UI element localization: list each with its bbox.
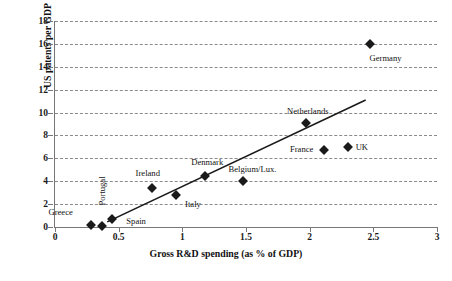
y-axis-tick-mark [48, 90, 53, 91]
gridline [55, 158, 437, 159]
gridline [55, 67, 437, 68]
x-axis-tick-label: 1 [180, 232, 185, 242]
y-axis-tick-mark [48, 158, 53, 159]
y-axis-tick-mark [48, 181, 53, 182]
x-axis-tick-label: 0 [53, 232, 58, 242]
data-point-marker [200, 171, 210, 181]
gridline [55, 135, 437, 136]
data-point-label: Ireland [136, 168, 160, 178]
scatter-chart: US patents per GDP Gross R&D spending (a… [0, 0, 452, 281]
data-point-label: France [290, 144, 313, 154]
data-point-label: UK [356, 142, 368, 152]
data-point-label: Belgium/Lux. [228, 164, 276, 174]
data-point-marker [107, 214, 117, 224]
x-axis-title: Gross R&D spending (as % of GDP) [0, 248, 452, 259]
gridline [55, 113, 437, 114]
data-point-label: Netherlands [287, 106, 329, 116]
x-axis-tick-label: 2.5 [367, 232, 379, 242]
data-point-label: Portugal [97, 176, 107, 205]
data-point-marker [147, 183, 157, 193]
data-point-label: Germany [370, 53, 402, 63]
y-axis-tick-label: 10 [39, 108, 49, 118]
data-point-marker [319, 145, 329, 155]
data-point-label: Spain [126, 216, 146, 226]
data-point-marker [171, 190, 181, 200]
x-axis-tick-label: 2 [307, 232, 312, 242]
data-point-label: Italy [185, 199, 201, 209]
y-axis-tick-label: 18 [39, 16, 49, 26]
data-point-marker [239, 176, 249, 186]
y-axis-tick-label: 12 [39, 85, 49, 95]
data-point-marker [97, 221, 107, 231]
y-axis-tick-label: 16 [39, 39, 49, 49]
y-axis-tick-mark [48, 44, 53, 45]
y-axis-tick-mark [48, 204, 53, 205]
y-axis-tick-mark [48, 227, 53, 228]
gridline [55, 204, 437, 205]
y-axis-tick-mark [48, 135, 53, 136]
plot-area: GreeceSpainPortugalIrelandItalyDenmarkBe… [55, 21, 437, 227]
data-point-marker [343, 142, 353, 152]
data-point-marker [301, 118, 311, 128]
x-axis-tick-label: 1.5 [240, 232, 252, 242]
data-point-marker [365, 39, 375, 49]
y-axis-tick-label: 14 [39, 62, 49, 72]
gridline [55, 90, 437, 91]
x-axis-tick-label: 0.5 [113, 232, 125, 242]
y-axis-tick-mark [48, 21, 53, 22]
y-axis-tick-mark [48, 113, 53, 114]
gridline [55, 21, 437, 22]
data-point-marker [86, 220, 96, 230]
gridline [55, 44, 437, 45]
data-point-label: Denmark [191, 157, 223, 167]
data-point-label: Greece [48, 207, 72, 217]
x-axis-tick-label: 3 [435, 232, 440, 242]
y-axis-tick-mark [48, 67, 53, 68]
